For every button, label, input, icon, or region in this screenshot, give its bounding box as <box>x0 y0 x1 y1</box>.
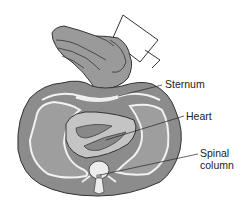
label-sternum: Sternum <box>165 79 205 90</box>
label-spinal: Spinal <box>200 148 229 159</box>
cpr-diagram <box>0 0 243 210</box>
label-column: column <box>200 160 234 171</box>
label-heart: Heart <box>186 111 212 122</box>
torso-cross-section <box>18 81 182 196</box>
